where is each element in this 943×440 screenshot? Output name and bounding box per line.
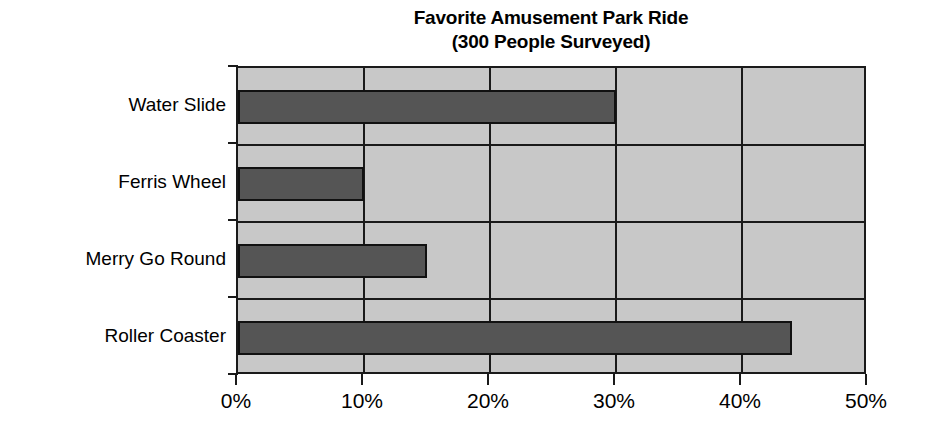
bar-water-slide bbox=[238, 90, 616, 124]
bar-merry-go-round bbox=[238, 244, 427, 278]
x-axis-tick bbox=[613, 374, 615, 385]
gridline-horizontal bbox=[238, 221, 864, 223]
y-axis-labels: Water SlideFerris WheelMerry Go RoundRol… bbox=[46, 66, 226, 374]
y-axis-label: Ferris Wheel bbox=[46, 171, 226, 193]
y-axis-label: Merry Go Round bbox=[46, 248, 226, 270]
gridline-horizontal bbox=[238, 144, 864, 146]
x-axis-tick bbox=[361, 374, 363, 385]
x-axis-tick bbox=[487, 374, 489, 385]
gridline-horizontal bbox=[238, 298, 864, 300]
x-axis-label: 20% bbox=[443, 388, 533, 414]
chart-title-line-2: (300 People Surveyed) bbox=[236, 30, 866, 54]
bar-chart: Favorite Amusement Park Ride (300 People… bbox=[0, 0, 943, 440]
y-axis-label: Water Slide bbox=[46, 94, 226, 116]
y-axis-tick bbox=[228, 219, 238, 221]
x-axis-label: 10% bbox=[317, 388, 407, 414]
x-axis-label: 0% bbox=[191, 388, 281, 414]
x-axis-tick bbox=[235, 374, 237, 385]
x-axis-tick bbox=[865, 374, 867, 385]
y-axis-tick bbox=[228, 142, 238, 144]
x-axis-tick bbox=[739, 374, 741, 385]
bar-ferris-wheel bbox=[238, 167, 364, 201]
y-axis-tick bbox=[228, 296, 238, 298]
plot-area bbox=[236, 66, 866, 374]
bar-roller-coaster bbox=[238, 321, 792, 355]
chart-title: Favorite Amusement Park Ride (300 People… bbox=[236, 6, 866, 54]
x-axis-label: 30% bbox=[569, 388, 659, 414]
y-axis-tick bbox=[228, 65, 238, 67]
chart-title-line-1: Favorite Amusement Park Ride bbox=[236, 6, 866, 30]
y-axis-label: Roller Coaster bbox=[46, 325, 226, 347]
x-axis-label: 50% bbox=[821, 388, 911, 414]
x-axis-label: 40% bbox=[695, 388, 785, 414]
